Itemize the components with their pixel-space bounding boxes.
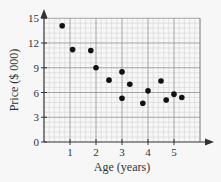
data-point	[88, 48, 94, 54]
x-tick-label: 4	[145, 146, 151, 158]
y-tick-label: 6	[34, 87, 40, 99]
y-tick-label: 0	[34, 136, 40, 148]
y-axis-label: Price ($ 000)	[7, 49, 21, 112]
data-point	[59, 23, 65, 29]
x-axis-arrow-icon	[205, 139, 214, 146]
data-point	[179, 95, 185, 101]
data-point	[127, 81, 133, 87]
data-point	[140, 100, 146, 106]
x-tick-label: 5	[171, 146, 177, 158]
y-tick-label: 9	[34, 62, 40, 74]
x-tick-label: 1	[67, 146, 73, 158]
data-point	[171, 91, 177, 97]
y-tick-label: 3	[34, 111, 40, 123]
y-tick-label: 15	[28, 12, 40, 24]
x-tick-label: 2	[93, 146, 99, 158]
scatter-chart: 12345 03691215 Age (years) Price ($ 000)	[0, 0, 221, 182]
data-point	[106, 77, 112, 83]
data-point	[70, 47, 76, 53]
data-point	[145, 88, 151, 94]
data-point	[163, 97, 169, 103]
data-point	[119, 95, 125, 101]
data-point	[119, 69, 125, 75]
x-tick-label: 3	[119, 146, 125, 158]
data-point	[93, 65, 99, 71]
y-tick-label: 12	[28, 37, 39, 49]
x-axis-label: Age (years)	[94, 160, 150, 174]
data-point	[158, 78, 164, 84]
y-axis-arrow-icon	[41, 9, 48, 18]
grid-major	[44, 18, 200, 142]
